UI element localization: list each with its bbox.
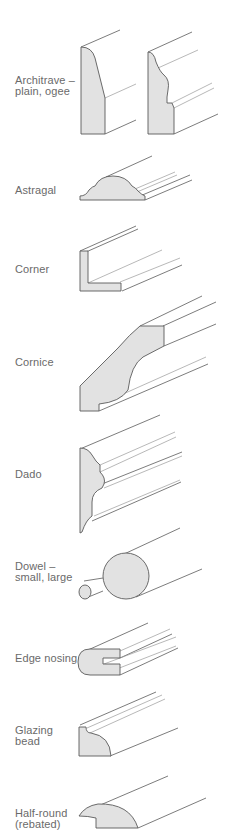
astragal-icon <box>80 156 192 200</box>
mouldings-diagram <box>0 0 231 837</box>
architrave-plain-icon <box>81 30 136 134</box>
cornice-icon <box>80 296 216 411</box>
architrave-ogee-icon <box>148 32 218 134</box>
dowel-icon <box>79 528 202 599</box>
dado-icon <box>80 415 182 533</box>
half-round-icon <box>79 776 206 828</box>
corner-icon <box>80 226 182 291</box>
edge-nosing-icon <box>78 623 178 675</box>
glazing-bead-icon <box>79 692 178 756</box>
